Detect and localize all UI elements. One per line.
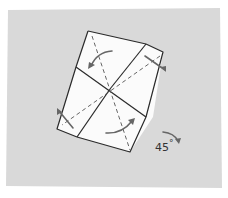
origami-diagram: [0, 0, 228, 198]
rotation-degrees: 45: [155, 141, 169, 154]
degree-symbol: °: [169, 138, 174, 148]
rotation-label: 45°: [155, 141, 174, 154]
